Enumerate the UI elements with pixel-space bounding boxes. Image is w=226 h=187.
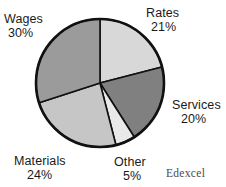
slice-label-rates-name: Rates — [146, 6, 179, 20]
slice-label-wages-name: Wages — [4, 12, 43, 26]
slice-label-rates-value: 21% — [146, 20, 179, 34]
slice-label-other-value: 5% — [114, 169, 146, 183]
slice-label-other: Other 5% — [114, 155, 146, 183]
slice-label-materials-name: Materials — [14, 154, 66, 168]
slice-label-materials: Materials 24% — [14, 154, 66, 182]
slice-label-wages-value: 30% — [4, 26, 43, 40]
slice-label-services-name: Services — [172, 98, 221, 112]
edexcel-watermark: Edexcel — [166, 167, 205, 179]
slice-label-rates: Rates 21% — [146, 6, 179, 34]
slice-label-materials-value: 24% — [14, 168, 66, 182]
slice-label-services: Services 20% — [172, 98, 221, 126]
slice-label-other-name: Other — [114, 155, 146, 169]
slice-label-services-value: 20% — [172, 112, 221, 126]
pie-chart-figure: Rates 21% Wages 30% Services 20% Materia… — [0, 0, 226, 187]
slice-label-wages: Wages 30% — [4, 12, 43, 40]
